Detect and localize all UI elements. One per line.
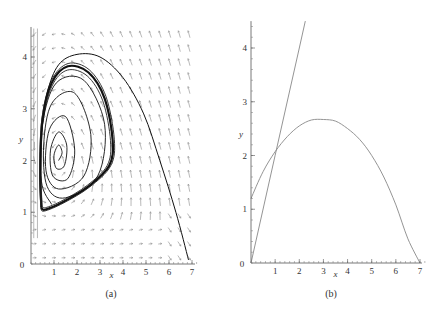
y-axis-title: y bbox=[238, 129, 243, 139]
x-tick-label: 1 bbox=[273, 266, 278, 276]
y-tick-label: 3 bbox=[23, 104, 28, 114]
panel-b-axes: 123456712340xy bbox=[238, 21, 425, 279]
line-nullcline bbox=[251, 21, 305, 263]
y-tick-label: 3 bbox=[243, 97, 248, 107]
nullcline-curves bbox=[251, 21, 420, 263]
origin-label: 0 bbox=[20, 260, 25, 270]
panel-a-caption: (a) bbox=[105, 288, 116, 300]
x-tick-label: 4 bbox=[121, 267, 126, 277]
y-axis-title: y bbox=[18, 134, 23, 144]
y-tick-label: 4 bbox=[23, 52, 28, 62]
panel-b-nullclines: 123456712340xy (b) bbox=[238, 21, 425, 300]
figure: 123456712340xy (a) 123456712340xy (b) bbox=[0, 0, 437, 315]
x-tick-label: 4 bbox=[345, 266, 350, 276]
x-tick-label: 2 bbox=[297, 266, 302, 276]
spiral-inner bbox=[40, 76, 105, 204]
y-tick-label: 2 bbox=[243, 151, 248, 161]
x-tick-label: 5 bbox=[369, 266, 374, 276]
x-tick-label: 6 bbox=[167, 267, 172, 277]
field-arrow bbox=[121, 198, 122, 206]
x-tick-label: 5 bbox=[144, 267, 149, 277]
x-tick-label: 7 bbox=[418, 266, 423, 276]
x-tick-label: 3 bbox=[321, 266, 326, 276]
x-axis-title: x bbox=[333, 269, 338, 279]
x-tick-label: 2 bbox=[75, 267, 80, 277]
panel-a-axes: 123456712340xy bbox=[18, 27, 197, 280]
x-axis-title: x bbox=[109, 270, 114, 280]
y-tick-label: 2 bbox=[23, 156, 28, 166]
x-tick-label: 7 bbox=[190, 267, 195, 277]
x-tick-label: 1 bbox=[52, 267, 57, 277]
y-tick-label: 1 bbox=[23, 207, 28, 217]
x-tick-label: 6 bbox=[394, 266, 399, 276]
y-tick-label: 1 bbox=[243, 204, 248, 214]
field-arrow bbox=[121, 184, 122, 192]
parabola-nullcline bbox=[251, 119, 420, 263]
x-tick-label: 3 bbox=[98, 267, 103, 277]
panel-a-phase-portrait: 123456712340xy (a) bbox=[18, 27, 197, 300]
y-tick-label: 4 bbox=[243, 43, 248, 53]
panel-b-caption: (b) bbox=[325, 288, 337, 300]
origin-label: 0 bbox=[240, 259, 245, 269]
trajectories bbox=[34, 29, 189, 260]
